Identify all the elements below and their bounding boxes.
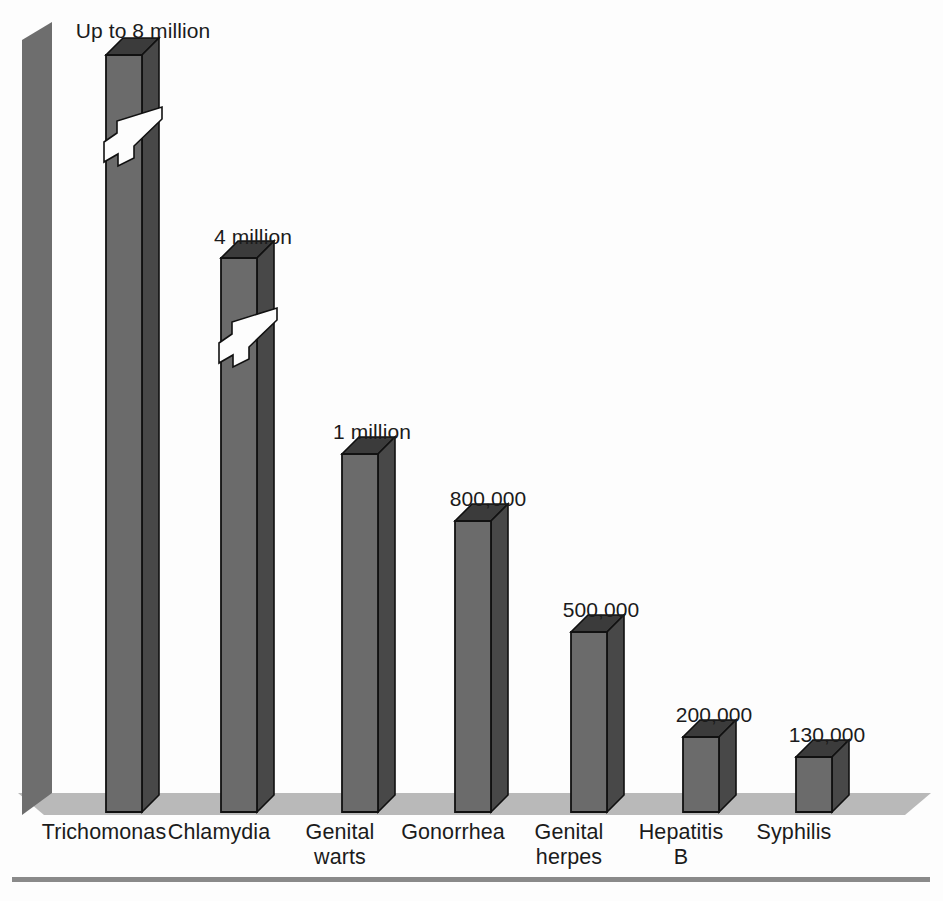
category-label-line: warts (250, 845, 430, 870)
category-label-line: Syphilis (704, 820, 884, 845)
chart-canvas (0, 0, 943, 901)
value-label-syphilis: 130,000 (717, 723, 937, 747)
bar-gonorrhea (455, 504, 508, 812)
value-label-genital-warts: 1 million (262, 420, 482, 444)
bottom-rule (12, 877, 930, 882)
value-label-trichomonas: Up to 8 million (33, 19, 253, 43)
chart-figure: Up to 8 million4 million1 million800,000… (0, 0, 943, 901)
value-label-genital-herpes: 500,000 (491, 598, 711, 622)
bar-syphilis (796, 740, 849, 812)
y-axis-wall (22, 22, 52, 815)
value-label-gonorrhea: 800,000 (378, 487, 598, 511)
category-label-line: B (591, 845, 771, 870)
value-label-chlamydia: 4 million (143, 225, 363, 249)
category-label-syphilis: Syphilis (704, 820, 884, 845)
